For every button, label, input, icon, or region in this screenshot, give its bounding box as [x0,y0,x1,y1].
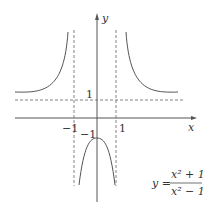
equation-lhs: y = [151,177,171,190]
tick-y-pos: 1 [86,88,93,101]
x-axis-label: x [188,121,195,134]
y-axis-arrow-icon [95,13,99,20]
tick-y-neg: −1 [80,128,96,141]
curve-left-branch [15,32,68,92]
x-axis-arrow-icon [191,116,197,120]
y-axis-label: y [101,12,109,25]
tick-x-neg: −1 [62,122,78,135]
graph: y x 1 −1 1 −1 y = x² + 1 x² − 1 [0,0,210,210]
curve-right-branch [126,32,178,92]
equation-numerator: x² + 1 [171,168,205,181]
tick-x-pos: 1 [119,122,126,135]
equation-denominator: x² − 1 [171,185,205,198]
